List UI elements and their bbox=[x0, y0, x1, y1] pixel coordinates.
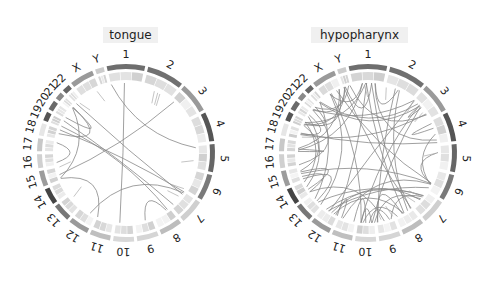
chromosome-band-21 bbox=[56, 93, 65, 102]
track-block bbox=[287, 148, 295, 151]
link bbox=[298, 83, 363, 150]
chromosome-band-5 bbox=[450, 144, 457, 172]
track-block bbox=[120, 72, 131, 80]
chromosome-label: 2 bbox=[406, 58, 418, 73]
chromosome-label: 1 bbox=[364, 48, 371, 61]
chromosome-label: 11 bbox=[88, 239, 105, 256]
chromosome-band-10 bbox=[355, 236, 376, 242]
chromosome-label: 11 bbox=[330, 239, 347, 256]
tick bbox=[74, 187, 81, 197]
track-block bbox=[439, 133, 448, 142]
chromosome-band-17 bbox=[279, 138, 285, 151]
chromosome-band-20 bbox=[49, 101, 58, 112]
chromosome-band-Y bbox=[337, 67, 347, 74]
track-block bbox=[287, 154, 295, 158]
link bbox=[61, 126, 167, 209]
chromosome-label: 15 bbox=[266, 173, 283, 190]
track-block bbox=[369, 226, 375, 234]
chromosome-band-10 bbox=[113, 236, 134, 242]
track-block bbox=[287, 158, 295, 162]
track-block bbox=[127, 226, 133, 234]
chromosome-band-20 bbox=[291, 101, 300, 112]
link bbox=[90, 184, 183, 213]
panel-hypopharynx: hypopharynx 1234567891011121314151617181… bbox=[242, 0, 484, 282]
track-block bbox=[351, 72, 363, 81]
track-block bbox=[287, 144, 295, 148]
chromosome-label: 8 bbox=[412, 230, 425, 245]
track-block bbox=[45, 154, 53, 158]
track-block bbox=[362, 72, 373, 80]
track-block bbox=[378, 224, 385, 233]
track-block bbox=[132, 72, 144, 81]
tick bbox=[152, 91, 154, 103]
link bbox=[76, 104, 182, 195]
tick bbox=[181, 161, 193, 162]
tick bbox=[167, 191, 178, 196]
track-block bbox=[121, 226, 127, 234]
chromosome-band-18 bbox=[281, 123, 289, 136]
track-block bbox=[199, 145, 207, 153]
chromosome-label: 17 bbox=[263, 136, 277, 151]
track-block bbox=[433, 116, 444, 127]
link bbox=[59, 102, 173, 175]
chromosome-label: Y bbox=[332, 52, 344, 67]
chromosome-label: 6 bbox=[209, 186, 224, 198]
chromosome-label: 7 bbox=[192, 212, 206, 226]
circos-plot-tongue: 12345678910111213141516171819202122XY bbox=[0, 0, 242, 282]
chromosome-band-17 bbox=[37, 138, 43, 151]
chromosome-band-15 bbox=[281, 170, 290, 186]
track-block bbox=[363, 226, 369, 234]
chromosome-label: 13 bbox=[44, 210, 63, 229]
track-block bbox=[105, 224, 112, 233]
chromosome-label: 13 bbox=[286, 210, 305, 229]
track-block bbox=[441, 154, 449, 162]
chromosome-label: 3 bbox=[437, 84, 452, 98]
track-block bbox=[441, 145, 449, 153]
chromosome-band-16 bbox=[279, 154, 285, 168]
chromosome-label: 4 bbox=[213, 118, 227, 129]
chromosome-band-22 bbox=[305, 85, 314, 94]
chromosome-band-1 bbox=[349, 64, 388, 71]
chromosome-band-15 bbox=[39, 170, 48, 186]
chromosome-band-18 bbox=[39, 123, 47, 136]
link bbox=[412, 124, 434, 135]
chromosome-label: 12 bbox=[305, 227, 324, 246]
chromosome-label: 7 bbox=[434, 212, 448, 226]
link bbox=[301, 168, 431, 183]
tick bbox=[80, 103, 90, 110]
track-block bbox=[45, 144, 53, 148]
track-block bbox=[197, 133, 206, 142]
link bbox=[301, 168, 329, 189]
link bbox=[375, 83, 398, 104]
chromosome-label: 10 bbox=[358, 245, 372, 258]
track-block bbox=[199, 154, 207, 162]
chromosome-label: 17 bbox=[21, 136, 35, 151]
chromosome-band-16 bbox=[37, 154, 43, 168]
chromosome-label: 9 bbox=[146, 241, 156, 255]
track-block bbox=[191, 116, 202, 127]
track-block bbox=[46, 140, 54, 144]
track-block bbox=[288, 140, 296, 144]
tick bbox=[59, 162, 70, 167]
track-block bbox=[109, 72, 121, 81]
chromosome-band-Y bbox=[95, 67, 105, 74]
track-block bbox=[347, 224, 354, 233]
chromosome-label: 14 bbox=[31, 192, 49, 211]
track-block bbox=[288, 162, 296, 167]
chromosome-label: 2 bbox=[164, 58, 176, 73]
link bbox=[345, 83, 371, 108]
track-block bbox=[114, 225, 120, 234]
track-block bbox=[145, 75, 157, 86]
track-block bbox=[45, 148, 53, 151]
chromosome-band-19 bbox=[43, 112, 51, 122]
chromosome-label: 16 bbox=[21, 155, 35, 170]
panel-tongue: tongue 123456789101112131415161718192021… bbox=[0, 0, 242, 282]
chromosome-label: 10 bbox=[116, 245, 130, 258]
chromosome-label: 15 bbox=[24, 173, 41, 190]
chromosome-label: 3 bbox=[195, 84, 210, 98]
chromosome-label: 5 bbox=[218, 155, 231, 163]
track-block bbox=[356, 225, 362, 234]
chromosome-band-21 bbox=[298, 93, 307, 102]
tick bbox=[386, 87, 387, 99]
chromosome-label: 1 bbox=[122, 48, 129, 61]
